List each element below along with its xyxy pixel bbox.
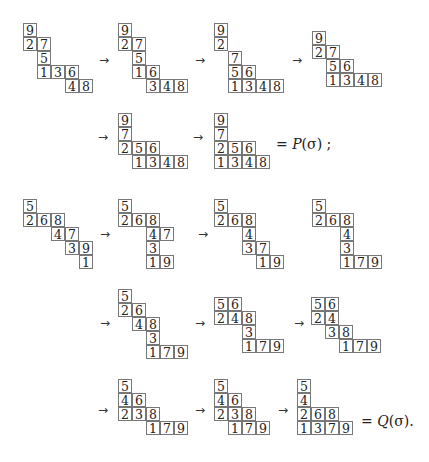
tableau-cell: 1: [132, 65, 146, 79]
tableau-cell: 3: [242, 325, 256, 339]
tableau-cell: 4: [214, 393, 228, 407]
tableau-cell: 3: [146, 155, 160, 169]
tableau-cell: 1: [132, 155, 146, 169]
tableau-cell: 6: [326, 213, 340, 227]
tableau-cell: 7: [325, 421, 339, 435]
tableau-cell: 3: [146, 331, 160, 345]
tableau-cell: 3: [311, 421, 325, 435]
tableau-cell: 5: [311, 297, 325, 311]
tableau-cell: 3: [228, 155, 242, 169]
tableau-cell: 9: [118, 113, 132, 127]
tableau-cell: 9: [79, 241, 93, 255]
tableau-cell: 4: [118, 393, 132, 407]
tableau-cell: 1: [228, 421, 242, 435]
tableau-cell: 7: [132, 37, 146, 51]
tableau-cell: 2: [23, 213, 37, 227]
tableau-cell: 8: [146, 407, 160, 421]
tableau-cell: 6: [242, 141, 256, 155]
tableau-cell: 6: [325, 297, 339, 311]
tableau-cell: 7: [37, 37, 51, 51]
tableau-cell: 6: [228, 297, 242, 311]
tableau-cell: 2: [312, 45, 326, 59]
tableau-cell: 6: [228, 213, 242, 227]
tableau-cell: 3: [146, 79, 160, 93]
tableau-cell: 4: [160, 79, 174, 93]
tableau-cell: 5: [326, 59, 340, 73]
tableau-cell: 5: [228, 65, 242, 79]
tableau-cell: 1: [340, 255, 354, 269]
tableau-cell: 3: [146, 241, 160, 255]
tableau-cell: 6: [242, 65, 256, 79]
tableau-cell: 2: [214, 407, 228, 421]
tableau-cell: 2: [118, 37, 132, 51]
tableau-cell: 7: [353, 339, 367, 353]
tableau-cell: 2: [311, 311, 325, 325]
tableau-cell: 4: [297, 393, 311, 407]
tableau-cell: 3: [132, 407, 146, 421]
tableau-cell: 1: [228, 79, 242, 93]
tableau-cell: 8: [51, 213, 65, 227]
tableau-cell: 6: [228, 393, 242, 407]
tableau-cell: 1: [339, 339, 353, 353]
tableau-cell: 2: [214, 213, 228, 227]
tableau-cell: 7: [160, 421, 174, 435]
tableau-cell: 7: [326, 45, 340, 59]
tableau-cell: 8: [368, 73, 382, 87]
tableau-cell: 9: [256, 421, 270, 435]
tableau-cell: 4: [340, 227, 354, 241]
tableau-cell: 4: [65, 79, 79, 93]
right-arrow-icon: →: [292, 54, 302, 66]
tableau-cell: 2: [118, 213, 132, 227]
tableau-cell: 2: [312, 213, 326, 227]
tableau-cell: 9: [312, 31, 326, 45]
semicolon: ;: [327, 136, 332, 152]
tableau-cell: 4: [354, 73, 368, 87]
tableau-cell: 8: [242, 213, 256, 227]
tableau-cell: 7: [214, 127, 228, 141]
right-arrow-icon: →: [100, 317, 110, 329]
tableau-cell: 8: [242, 407, 256, 421]
tableau-cell: 6: [146, 141, 160, 155]
right-arrow-icon: →: [294, 317, 304, 329]
tableau-cell: 8: [146, 213, 160, 227]
tableau-cell: 3: [242, 241, 256, 255]
tableau-cell: 4: [228, 311, 242, 325]
tableau-cell: 5: [118, 289, 132, 303]
right-arrow-icon: →: [195, 317, 205, 329]
tableau-cell: 6: [340, 59, 354, 73]
tableau-cell: 4: [132, 317, 146, 331]
tableau-cell: 8: [174, 155, 188, 169]
tableau-cell: 1: [242, 339, 256, 353]
tableau-cell: 5: [214, 199, 228, 213]
tableau-cell: 7: [354, 255, 368, 269]
period: .: [409, 413, 413, 429]
tableau-cell: 1: [146, 345, 160, 359]
tableau-cell: 2: [118, 407, 132, 421]
right-arrow-icon: →: [98, 131, 108, 143]
tableau-cell: 8: [174, 79, 188, 93]
tableau-cell: 5: [132, 51, 146, 65]
right-arrow-icon: →: [98, 404, 108, 416]
tableau-cell: 7: [160, 227, 174, 241]
right-arrow-icon: →: [100, 228, 110, 240]
tableau-cell: 7: [118, 127, 132, 141]
tableau-cell: 5: [214, 297, 228, 311]
tableau-cell: 8: [146, 317, 160, 331]
tableau-cell: 6: [65, 65, 79, 79]
tableau-cell: 6: [132, 303, 146, 317]
tableau-cell: 4: [242, 227, 256, 241]
tableau-cell: 7: [242, 421, 256, 435]
tableau-cell: 2: [118, 303, 132, 317]
sigma-arg: (σ): [302, 136, 322, 152]
tableau-cell: 9: [368, 255, 382, 269]
tableau-cell: 2: [214, 311, 228, 325]
tableau-cell: 5: [118, 199, 132, 213]
tableau-cell: 1: [297, 421, 311, 435]
tableau-cell: 8: [270, 79, 284, 93]
tableau-cell: 6: [132, 393, 146, 407]
tableau-cell: 5: [297, 379, 311, 393]
equals-sign: =: [361, 413, 377, 429]
tableau-cell: 5: [312, 199, 326, 213]
tableau-cell: 9: [339, 421, 353, 435]
tableau-cell: 8: [79, 79, 93, 93]
